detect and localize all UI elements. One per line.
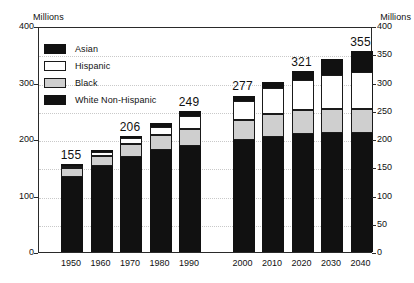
bar-2040[interactable] — [351, 51, 373, 252]
bar-total-label-2020: 321 — [282, 55, 322, 69]
y-axis-right-tick-label: 100 — [377, 191, 392, 201]
bar-2010[interactable] — [262, 82, 284, 252]
y-axis-right-tick-label: 200 — [377, 134, 392, 144]
bar-segment-black — [292, 110, 314, 135]
y-axis-right-tick-label: 50 — [377, 219, 387, 229]
bar-segment-black — [120, 144, 142, 157]
y-axis-left-tick-label: 100 — [0, 191, 34, 201]
y-axis-right-tick-label: 0 — [377, 247, 382, 257]
bar-segment-black — [351, 109, 373, 133]
bar-segment-white-non-hispanic — [321, 133, 343, 252]
bar-1990[interactable] — [179, 111, 201, 252]
y-axis-left-tick-label: 400 — [0, 21, 34, 31]
bar-segment-white-non-hispanic — [179, 146, 201, 252]
population-stacked-bar-chart: Millions Millions AsianHispanicBlackWhit… — [0, 0, 414, 283]
legend-item-asian[interactable]: Asian — [44, 40, 156, 57]
y-axis-right-tickmark — [372, 253, 376, 254]
bar-1970[interactable] — [120, 136, 142, 252]
legend-item-label: Asian — [75, 44, 98, 54]
bar-segment-white-non-hispanic — [61, 177, 83, 252]
y-axis-right-tick-label: 300 — [377, 78, 392, 88]
y-axis-right-tickmark — [372, 168, 376, 169]
bar-total-label-2040: 355 — [341, 35, 381, 49]
bar-segment-hispanic — [150, 127, 172, 135]
bar-segment-black — [179, 129, 201, 146]
bar-segment-asian — [351, 51, 373, 71]
bar-segment-white-non-hispanic — [150, 150, 172, 252]
y-axis-right-tickmark — [372, 84, 376, 85]
bar-segment-black — [233, 120, 255, 140]
y-axis-left-tick-label: 300 — [0, 78, 34, 88]
x-axis-tick-label-1990: 1990 — [170, 258, 208, 268]
bar-segment-white-non-hispanic — [351, 133, 373, 252]
y-axis-left-tickmark — [34, 140, 38, 141]
bar-2000[interactable] — [233, 96, 255, 253]
y-axis-right-tickmark — [372, 27, 376, 28]
legend-item-label: Black — [75, 78, 98, 88]
bar-total-label-2000: 277 — [223, 79, 263, 93]
bar-segment-black — [150, 135, 172, 150]
bar-segment-hispanic — [321, 75, 343, 109]
legend-item-hispanic[interactable]: Hispanic — [44, 57, 156, 74]
bar-2030[interactable] — [321, 59, 343, 252]
swatch-black-icon — [44, 78, 66, 88]
bar-1960[interactable] — [91, 150, 113, 252]
legend-item-label: White Non-Hispanic — [75, 95, 156, 105]
y-axis-right-tick-label: 350 — [377, 49, 392, 59]
bar-segment-black — [61, 168, 83, 176]
y-axis-right-tick-label: 400 — [377, 21, 392, 31]
bar-1950[interactable] — [61, 164, 83, 252]
bar-segment-hispanic — [233, 101, 255, 121]
y-axis-left-tickmark — [34, 84, 38, 85]
bar-total-label-1950: 155 — [51, 148, 91, 162]
y-axis-right-tickmark — [372, 225, 376, 226]
left-axis-caption: Millions — [33, 12, 64, 22]
bar-total-label-1970: 206 — [110, 120, 150, 134]
x-axis-tick-label-2040: 2040 — [342, 258, 380, 268]
bar-segment-hispanic — [292, 80, 314, 109]
y-axis-right-tickmark — [372, 197, 376, 198]
legend-item-label: Hispanic — [75, 61, 110, 71]
legend-item-white-non-hispanic[interactable]: White Non-Hispanic — [44, 91, 156, 108]
bar-segment-hispanic — [262, 88, 284, 114]
y-axis-right-tickmark — [372, 55, 376, 56]
bar-segment-black — [91, 156, 113, 167]
swatch-hispanic-icon — [44, 61, 66, 71]
bar-segment-white-non-hispanic — [91, 166, 113, 252]
legend-item-black[interactable]: Black — [44, 74, 156, 91]
swatch-asian-icon — [44, 44, 66, 54]
y-axis-left-tick-label: 200 — [0, 134, 34, 144]
bar-segment-asian — [292, 71, 314, 81]
chart-legend: AsianHispanicBlackWhite Non-Hispanic — [44, 40, 156, 108]
bar-segment-black — [321, 109, 343, 134]
swatch-white-non-hispanic-icon — [44, 95, 66, 105]
bar-segment-white-non-hispanic — [292, 134, 314, 252]
y-axis-left-tick-label: 0 — [0, 247, 34, 257]
bar-segment-white-non-hispanic — [262, 137, 284, 252]
y-axis-left-tickmark — [34, 27, 38, 28]
y-axis-right-tickmark — [372, 112, 376, 113]
y-axis-right-tick-label: 150 — [377, 162, 392, 172]
bar-segment-hispanic — [351, 72, 373, 109]
y-axis-left-tickmark — [34, 197, 38, 198]
bar-segment-white-non-hispanic — [233, 140, 255, 252]
y-axis-right-tickmark — [372, 140, 376, 141]
bar-segment-hispanic — [179, 116, 201, 128]
bar-1980[interactable] — [150, 123, 172, 252]
bar-segment-black — [262, 114, 284, 137]
bar-2020[interactable] — [292, 71, 314, 252]
y-axis-right-tick-label: 250 — [377, 106, 392, 116]
bar-total-label-1990: 249 — [169, 95, 209, 109]
bar-segment-white-non-hispanic — [120, 157, 142, 252]
y-axis-left-tickmark — [34, 253, 38, 254]
bar-segment-asian — [321, 59, 343, 74]
